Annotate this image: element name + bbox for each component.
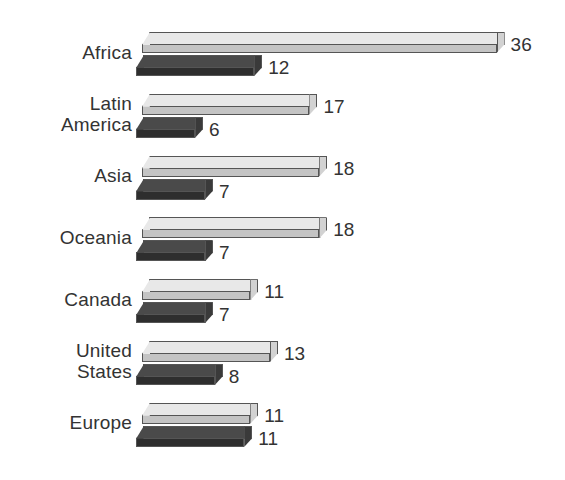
- bar-front-face: [136, 67, 254, 76]
- bar-light: [142, 403, 258, 424]
- bar-end-cap: [319, 217, 327, 238]
- category-label: United States: [4, 340, 132, 382]
- bar-end-cap: [254, 55, 262, 76]
- value-label: 11: [258, 428, 278, 449]
- value-label: 12: [268, 57, 289, 78]
- value-label: 7: [219, 304, 230, 325]
- bar-dark: [136, 302, 213, 323]
- category-label: Europe: [4, 412, 132, 433]
- bar-end-cap: [497, 32, 505, 53]
- bar-dark: [136, 179, 213, 200]
- bar-top-face: [149, 94, 316, 107]
- bar-end-cap: [195, 117, 203, 138]
- value-label: 6: [209, 119, 220, 140]
- bar-end-cap: [205, 179, 213, 200]
- bar-top-face: [143, 426, 251, 439]
- bar-top-face: [143, 302, 212, 315]
- bar-dark: [136, 55, 262, 76]
- bar-top-face: [149, 341, 277, 354]
- bar-top-face: [143, 55, 261, 68]
- value-label: 17: [323, 96, 344, 117]
- bar-front-face: [142, 291, 250, 300]
- bar-top-face: [149, 279, 257, 292]
- bar-dark: [136, 240, 213, 261]
- bar-end-cap: [250, 279, 258, 300]
- bar-top-face: [143, 364, 222, 377]
- bar-front-face: [142, 353, 270, 362]
- bar-top-face: [149, 217, 326, 230]
- bar-front-face: [136, 438, 244, 447]
- bar-end-cap: [250, 403, 258, 424]
- bar-top-face: [143, 117, 202, 130]
- bar-end-cap: [309, 94, 317, 115]
- bar-light: [142, 156, 327, 177]
- category-label: Asia: [4, 165, 132, 186]
- bar-dark: [136, 364, 223, 385]
- value-label: 13: [284, 343, 305, 364]
- bar-light: [142, 217, 327, 238]
- value-label: 7: [219, 242, 230, 263]
- bar-top-face: [149, 32, 504, 45]
- category-label: Canada: [4, 289, 132, 310]
- value-label: 11: [264, 405, 284, 426]
- bar-end-cap: [215, 364, 223, 385]
- bar-top-face: [143, 240, 212, 253]
- bar-dark: [136, 117, 203, 138]
- bar-light: [142, 94, 317, 115]
- bar-end-cap: [319, 156, 327, 177]
- value-label: 7: [219, 181, 230, 202]
- bar-light: [142, 279, 258, 300]
- bar-end-cap: [205, 302, 213, 323]
- bar-front-face: [136, 252, 205, 261]
- value-label: 11: [264, 281, 284, 302]
- value-label: 18: [333, 158, 354, 179]
- bar-front-face: [136, 191, 205, 200]
- bar-end-cap: [205, 240, 213, 261]
- bar-chart: Africa3612Latin America176Asia187Oceania…: [0, 0, 565, 480]
- bar-top-face: [149, 156, 326, 169]
- category-label: Oceania: [4, 227, 132, 248]
- bar-front-face: [142, 168, 319, 177]
- value-label: 18: [333, 219, 354, 240]
- bar-front-face: [136, 314, 205, 323]
- bar-light: [142, 341, 278, 362]
- value-label: 8: [229, 366, 240, 387]
- bar-light: [142, 32, 505, 53]
- bar-front-face: [142, 44, 497, 53]
- bar-front-face: [142, 415, 250, 424]
- bar-end-cap: [244, 426, 252, 447]
- bar-top-face: [149, 403, 257, 416]
- bar-front-face: [136, 376, 215, 385]
- plot-area: Africa3612Latin America176Asia187Oceania…: [0, 0, 565, 480]
- value-label: 36: [511, 34, 532, 55]
- category-label: Latin America: [4, 93, 132, 135]
- bar-top-face: [143, 179, 212, 192]
- category-label: Africa: [4, 42, 132, 63]
- bar-front-face: [136, 129, 195, 138]
- bar-dark: [136, 426, 252, 447]
- bar-front-face: [142, 229, 319, 238]
- bar-end-cap: [270, 341, 278, 362]
- bar-front-face: [142, 106, 309, 115]
